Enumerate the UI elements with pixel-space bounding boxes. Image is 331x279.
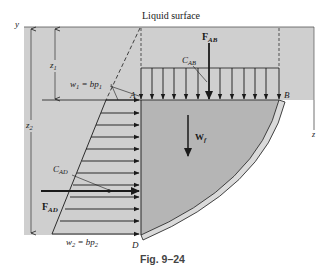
liquid-region-upper (24, 27, 314, 100)
point-d-label: D (131, 240, 139, 250)
w2-label: w2 = bp2 (66, 237, 99, 248)
point-b-label: B (284, 90, 290, 100)
fluid-body-abd (141, 100, 279, 235)
liquid-surface-label: Liquid surface (142, 10, 201, 21)
hydrostatic-curved-surface-diagram: z y Liquid surface FAB CAB (0, 0, 331, 279)
z-axis-label: z (311, 130, 316, 139)
liquid-region-left (24, 100, 141, 235)
y-axis-label: y (14, 19, 19, 29)
centroid-c-ad-dot (107, 189, 111, 193)
point-a-label: A (129, 90, 136, 100)
figure-caption: Fig. 9–24 (140, 253, 185, 265)
w1-label: w1 = bp1 (70, 79, 102, 90)
